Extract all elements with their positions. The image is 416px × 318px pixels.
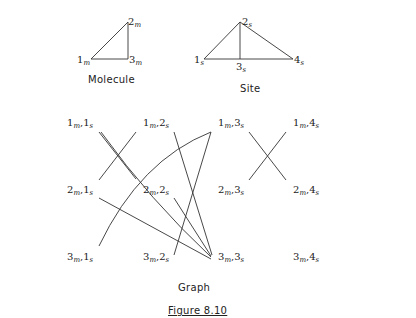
site-edge-1-2	[204, 22, 240, 59]
graph-edge-21-33	[99, 198, 211, 259]
graph-node-3m-2s: 3m,2s	[143, 251, 169, 266]
graph-node-1m-4s: 1m,4s	[293, 117, 319, 132]
site-node-1: 1s	[194, 54, 204, 69]
graph-node-2m-3s: 2m,3s	[218, 184, 244, 199]
graph-node-3m-4s: 3m,4s	[293, 251, 319, 266]
figure-label: Figure 8.10	[168, 305, 227, 316]
molecule-edge-1-2	[91, 22, 128, 59]
site-caption: Site	[240, 83, 260, 94]
graph-node-1m-2s: 1m,2s	[143, 117, 169, 132]
molecule-node-1: 1m	[77, 54, 90, 69]
graph-node-2m-4s: 2m,4s	[293, 184, 319, 199]
graph-node-3m-3s: 3m,3s	[218, 251, 244, 266]
graph-node-2m-2s: 2m,2s	[143, 184, 169, 199]
graph-edge-22-33	[174, 198, 211, 256]
graph-node-2m-1s: 2m,1s	[67, 184, 93, 199]
graph-caption: Graph	[178, 282, 210, 293]
site-node-2: 2s	[242, 16, 252, 31]
molecule-node-3: 3m	[129, 54, 142, 69]
site-node-3: 3s	[236, 61, 246, 76]
molecule-node-2: 2m	[128, 16, 141, 31]
diagram-lines	[0, 0, 416, 318]
graph-node-1m-1s: 1m,1s	[67, 117, 93, 132]
graph-node-3m-1s: 3m,1s	[67, 251, 93, 266]
site-node-4: 4s	[294, 54, 304, 69]
molecule-caption: Molecule	[88, 74, 135, 85]
graph-node-1m-3s: 1m,3s	[218, 117, 244, 132]
